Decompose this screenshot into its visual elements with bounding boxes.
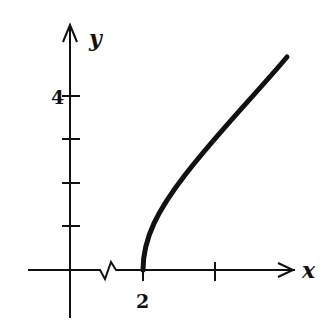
y-axis-label: y: [88, 25, 104, 51]
y-tick-label-4: 4: [51, 86, 64, 108]
x-axis-label: x: [301, 257, 316, 283]
x-axis: [28, 262, 295, 279]
graph: 4 2 y x: [0, 0, 332, 330]
x-tick-label-2: 2: [136, 290, 149, 312]
curve: [143, 57, 287, 270]
